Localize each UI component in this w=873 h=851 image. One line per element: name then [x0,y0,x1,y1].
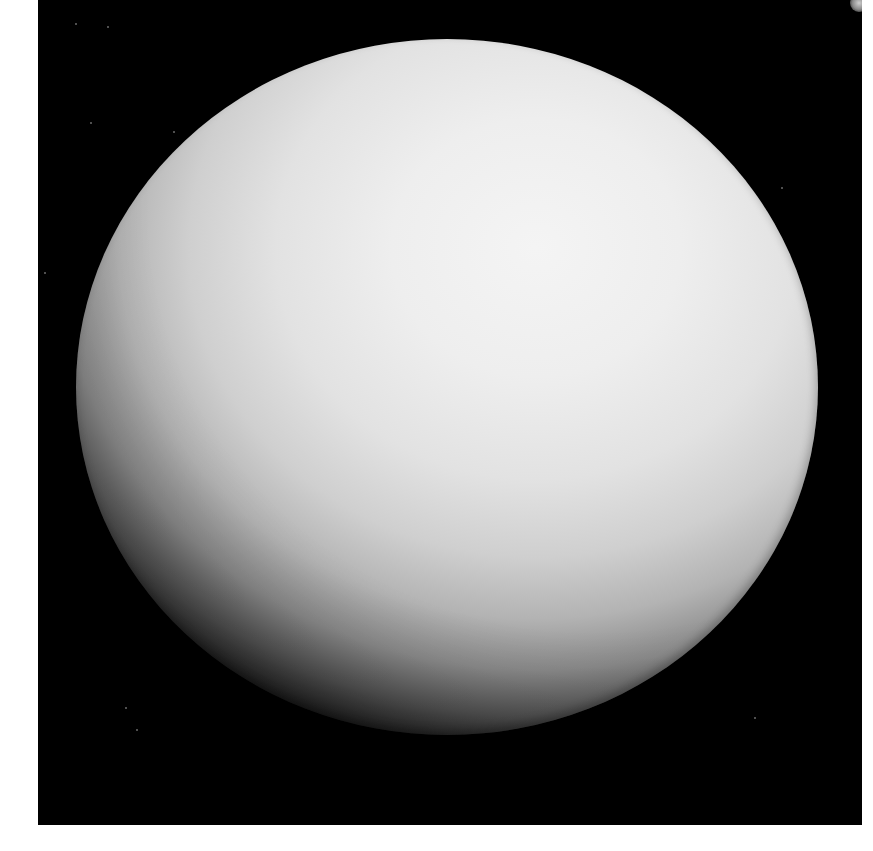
corner-glare [850,0,862,12]
star-speck [136,729,138,731]
star-speck [107,26,109,28]
image-canvas: A large, featureless, pale grey-white pl… [0,0,873,851]
space-background [38,0,862,825]
star-speck [44,272,46,274]
star-speck [125,707,127,709]
star-speck [90,122,92,124]
star-speck [75,23,77,25]
planet-disk [76,39,818,735]
star-speck [781,187,783,189]
star-speck [173,131,175,133]
star-speck [754,717,756,719]
